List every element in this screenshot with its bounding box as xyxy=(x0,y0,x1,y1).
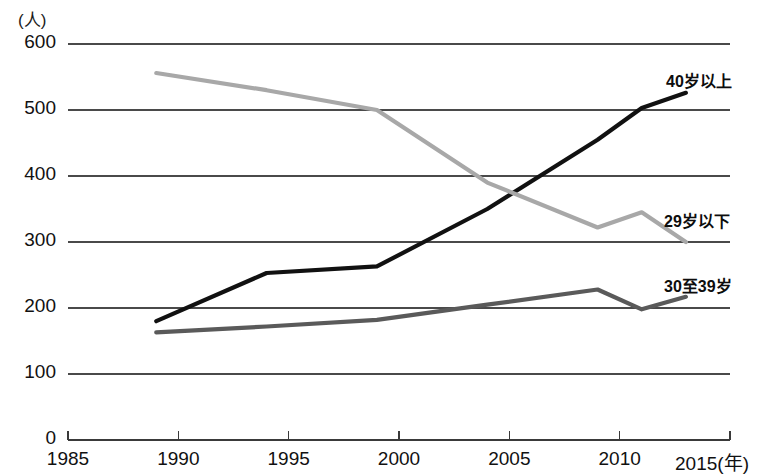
x-tick-label-1990: 1990 xyxy=(118,448,238,470)
axes-group xyxy=(68,431,730,440)
series-label-40岁以上: 40岁以上 xyxy=(666,68,732,92)
series-lines-group xyxy=(156,73,686,332)
x-tick-label-1995: 1995 xyxy=(229,448,349,470)
gridlines-group xyxy=(68,44,730,374)
y-tick-label-500: 500 xyxy=(0,97,56,119)
series-label-30至39岁: 30至39岁 xyxy=(664,273,732,297)
series-line-40岁以上 xyxy=(156,93,686,321)
series-line-29岁以下 xyxy=(156,73,686,242)
y-tick-label-200: 200 xyxy=(0,295,56,317)
x-tick-label-2000: 2000 xyxy=(339,448,459,470)
y-tick-label-300: 300 xyxy=(0,229,56,251)
y-tick-label-0: 0 xyxy=(0,427,56,449)
x-tick-label-1985: 1985 xyxy=(8,448,128,470)
y-tick-label-100: 100 xyxy=(0,361,56,383)
y-tick-label-600: 600 xyxy=(0,31,56,53)
x-tick-label-2015: 2015(年) xyxy=(652,448,768,475)
x-tick-label-2005: 2005 xyxy=(449,448,569,470)
series-label-29岁以下: 29岁以下 xyxy=(664,208,730,232)
series-line-30至39岁 xyxy=(156,290,686,333)
y-tick-label-400: 400 xyxy=(0,163,56,185)
